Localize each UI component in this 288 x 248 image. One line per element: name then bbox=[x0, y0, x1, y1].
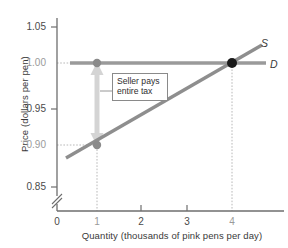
x-tick-label-1: 1 bbox=[87, 216, 107, 227]
supply-demand-chart: Price (dollars per pen) Quantity (thousa… bbox=[0, 0, 288, 248]
y-tick-marks bbox=[51, 27, 57, 187]
x-tick-label-3: 3 bbox=[177, 216, 197, 227]
y-tick-label-095: 0.95 bbox=[12, 103, 46, 114]
chart-canvas bbox=[0, 0, 288, 248]
x-tick-label-4: 4 bbox=[222, 216, 242, 227]
annotation-line-1: Seller pays bbox=[117, 76, 164, 86]
buyer-price-point bbox=[93, 59, 101, 67]
demand-curve-label: D bbox=[270, 58, 278, 70]
y-tick-label-090: 0.90 bbox=[12, 139, 46, 150]
supply-curve-label: S bbox=[261, 37, 268, 49]
y-tick-label-100: 1.00 bbox=[12, 57, 46, 68]
tax-arrow-double-headed bbox=[91, 62, 104, 146]
equilibrium-point bbox=[227, 58, 237, 68]
annotation-line-2: entire tax bbox=[117, 86, 164, 96]
seller-pays-entire-tax-annotation: Seller pays entire tax bbox=[112, 73, 168, 101]
y-tick-label-105: 1.05 bbox=[12, 21, 46, 32]
x-tick-label-0: 0 bbox=[47, 216, 67, 227]
seller-price-point bbox=[93, 141, 101, 149]
x-tick-label-2: 2 bbox=[131, 216, 151, 227]
x-axis-title: Quantity (thousands of pink pens per day… bbox=[56, 230, 288, 241]
x-tick-marks bbox=[141, 205, 187, 211]
y-tick-label-085: 0.85 bbox=[12, 181, 46, 192]
